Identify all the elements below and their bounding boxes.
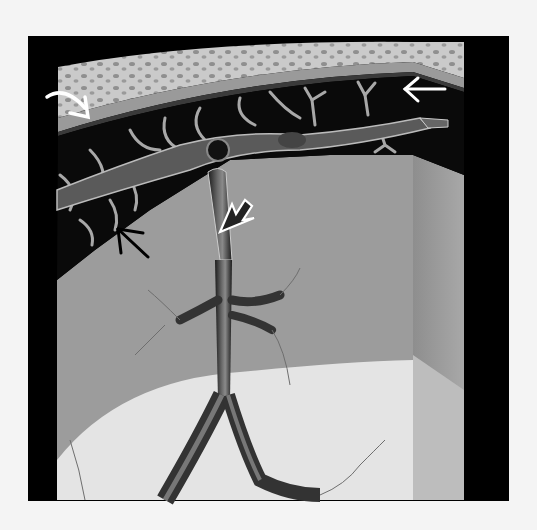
anatomical-illustration (0, 0, 537, 530)
